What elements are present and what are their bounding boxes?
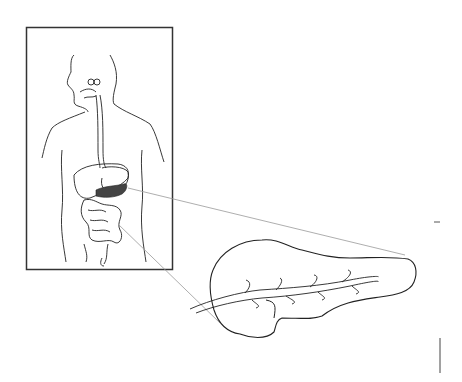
inset-frame bbox=[27, 28, 173, 270]
pancreas-outline bbox=[210, 240, 416, 338]
diagram-canvas bbox=[0, 0, 462, 382]
pancreas-detail bbox=[190, 240, 416, 338]
body-inset-panel bbox=[27, 28, 173, 270]
